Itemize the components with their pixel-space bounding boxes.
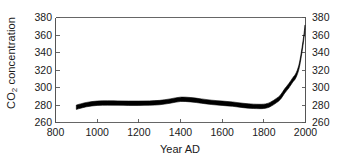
plot-area bbox=[0, 0, 360, 164]
co2-uncertainty-band bbox=[76, 25, 305, 109]
co2-data-band bbox=[76, 25, 305, 109]
co2-concentration-chart: CO2 concentration 260280300320340360380 … bbox=[0, 0, 360, 164]
